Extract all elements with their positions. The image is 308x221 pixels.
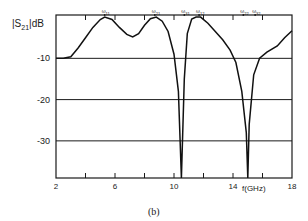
x-axis-title: f(GHz) [242, 184, 266, 193]
x-tick-label: 10 [170, 182, 179, 191]
y-tick-label: -10 [37, 53, 50, 63]
x-tick-label: 2 [54, 182, 59, 191]
y-tick-label: -20 [37, 95, 50, 105]
y-axis-title-main: |S [12, 18, 21, 29]
x-tick-label: 14 [229, 182, 238, 191]
x-tick-label: 18 [288, 182, 297, 191]
y-axis-title: |S21|dB [12, 18, 44, 31]
y-axis-title-sub: 21 [21, 24, 29, 31]
grid-lines: -10-20-30 [37, 53, 292, 146]
y-axis-title-unit: |dB [29, 18, 44, 29]
plot-frame [56, 15, 292, 178]
s21-curve [56, 17, 292, 178]
figure-caption: (b) [148, 206, 160, 217]
axis-ticks [86, 15, 263, 178]
x-tick-label: 6 [113, 182, 118, 191]
y-tick-label: -30 [37, 136, 50, 146]
